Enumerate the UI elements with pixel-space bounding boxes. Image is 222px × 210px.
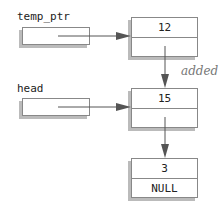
arrowhead-icon (161, 74, 169, 88)
arrows-layer (0, 0, 222, 210)
arrowhead-icon (116, 103, 131, 111)
arrowhead-icon (161, 144, 169, 158)
arrowhead-icon (116, 32, 131, 40)
